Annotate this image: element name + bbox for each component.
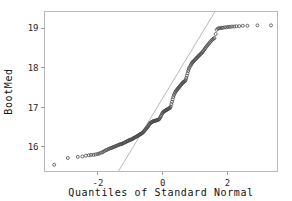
qq-plot-canvas: -20216171819Quantiles of Standard Normal…: [0, 0, 292, 201]
plot-frame: [45, 12, 278, 172]
data-points-group: [53, 24, 273, 166]
x-tick-label: 2: [225, 178, 230, 188]
data-point: [256, 24, 259, 27]
data-point: [246, 24, 249, 27]
reference-line: [118, 12, 215, 172]
x-tick-label: -2: [92, 178, 103, 188]
y-axis-title: BootMed: [3, 68, 14, 114]
data-point: [214, 33, 217, 36]
x-tick-label: 0: [160, 178, 165, 188]
data-point: [241, 24, 244, 27]
data-point: [53, 163, 56, 166]
y-tick-label: 18: [28, 63, 39, 73]
data-point: [270, 24, 273, 27]
x-axis-title: Quantiles of Standard Normal: [68, 187, 253, 198]
data-point: [81, 155, 84, 158]
data-point: [76, 155, 79, 158]
y-tick-label: 16: [28, 142, 39, 152]
y-tick-label: 19: [28, 23, 39, 33]
data-point: [84, 154, 87, 157]
y-tick-label: 17: [28, 103, 39, 113]
data-point: [66, 157, 69, 160]
qq-plot-figure: -20216171819Quantiles of Standard Normal…: [0, 0, 292, 201]
